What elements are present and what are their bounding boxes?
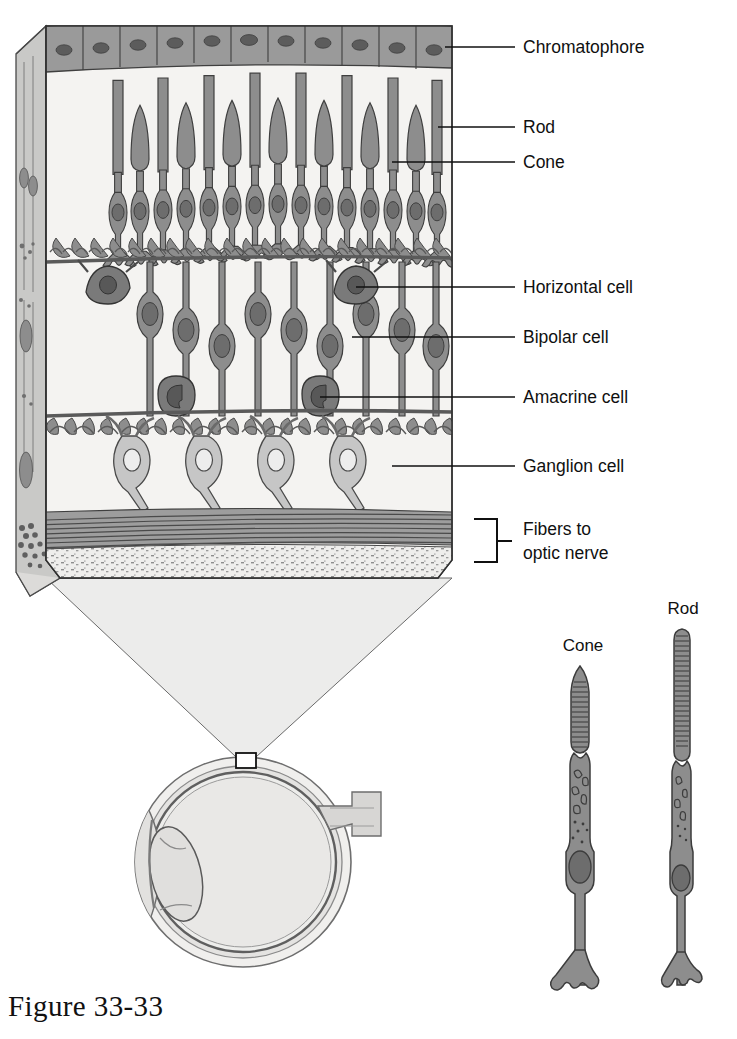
cone-inner-segment <box>137 171 144 193</box>
bipolar-nucleus <box>250 303 266 326</box>
cone-nucleus <box>569 851 591 883</box>
cone-detail-cell: Cone <box>551 636 604 990</box>
label-bipolar: Bipolar cell <box>523 327 609 347</box>
label-rod: Rod <box>523 117 555 137</box>
ganglion-nucleus <box>340 449 357 471</box>
bipolar-nucleus <box>142 303 158 326</box>
pigment-epithelium-layer <box>46 16 452 72</box>
rod-nucleus <box>295 197 307 214</box>
rod-nucleus <box>157 202 169 219</box>
bipolar-nucleus <box>178 319 194 342</box>
retina-sample-inset-box <box>236 753 256 768</box>
rod-inner-segment <box>252 165 259 187</box>
rod-nucleus <box>249 197 261 214</box>
bipolar-nucleus <box>322 335 338 358</box>
rod-inner-segment <box>298 165 305 187</box>
cone-inner-segment <box>413 171 420 193</box>
bipolar-nucleus <box>286 319 302 342</box>
ganglion-nucleus <box>268 449 285 471</box>
cone-detail-label: Cone <box>563 636 604 655</box>
figure-caption: Figure 33-33 <box>8 990 163 1022</box>
figure-root: ChromatophoreRodConeHorizontal cellBipol… <box>0 0 737 1039</box>
fibers-to-optic-nerve-callout: Fibers to optic nerve <box>474 519 609 563</box>
nerve-fiber-layer <box>46 509 452 550</box>
rod-nucleus <box>431 204 443 221</box>
rod-inner-segment <box>206 168 213 190</box>
fibers-label-line1: Fibers to <box>523 519 591 539</box>
retina-block-front-face <box>46 16 468 578</box>
cone-outer-segment <box>571 666 589 753</box>
cone-inner-segment <box>321 166 328 188</box>
rod-outer-segment <box>204 76 214 170</box>
ganglion-nucleus <box>124 449 141 471</box>
ganglion-nucleus <box>196 449 213 471</box>
rod-outer-segment <box>388 78 398 172</box>
rod-nucleus <box>112 204 124 221</box>
cone-nucleus <box>180 200 192 217</box>
rod-nucleus <box>387 202 399 219</box>
cone-inner-segment <box>367 169 374 191</box>
magnification-funnel <box>46 578 452 757</box>
cone-nucleus <box>272 196 284 213</box>
amacrine-cell <box>158 376 195 416</box>
rod-outer-segment <box>250 73 260 167</box>
retina-figure-plate: ChromatophoreRodConeHorizontal cellBipol… <box>0 0 737 1039</box>
rod-inner-segment <box>344 168 351 190</box>
rod-nucleus <box>203 199 215 216</box>
rod-inner-segment <box>115 172 122 194</box>
cone-inner-segment <box>229 166 236 188</box>
cone-inner-segment <box>275 164 282 186</box>
rod-outer-segment <box>158 78 168 172</box>
cone-inner-segment <box>183 169 190 191</box>
cone-synaptic-pedicle <box>551 950 599 990</box>
rod-nucleus <box>672 865 690 891</box>
rod-inner-segment <box>390 170 397 192</box>
label-amacrine: Amacrine cell <box>523 387 628 407</box>
label-cone: Cone <box>523 152 565 172</box>
rod-detail-cell: Rod <box>662 599 703 987</box>
rod-outer-segment <box>113 80 123 174</box>
fibers-label-line2: optic nerve <box>523 543 609 563</box>
inner-limiting-layer <box>46 544 452 578</box>
rod-outer-segment <box>342 76 352 170</box>
cone-nucleus <box>364 200 376 217</box>
bipolar-nucleus <box>358 303 374 326</box>
horizontal-nucleus <box>348 276 365 294</box>
rod-detail-label: Rod <box>667 599 698 618</box>
cone-nucleus <box>318 198 330 215</box>
cone-nucleus <box>226 198 238 215</box>
rod-inner-segment <box>160 170 167 192</box>
bipolar-nucleus <box>428 335 444 358</box>
rod-nucleus <box>341 199 353 216</box>
cone-nucleus <box>410 203 422 220</box>
inner-plexiform-layer <box>47 418 455 434</box>
label-horizontal: Horizontal cell <box>523 277 633 297</box>
bipolar-nucleus <box>394 319 410 342</box>
horizontal-nucleus <box>100 276 117 294</box>
label-ganglion: Ganglion cell <box>523 456 624 476</box>
eyeball-cross-section <box>131 753 381 967</box>
bipolar-nucleus <box>214 335 230 358</box>
label-chromatophore: Chromatophore <box>523 37 645 57</box>
rod-inner-segment <box>434 172 441 194</box>
rod-synaptic-spherule <box>662 952 703 987</box>
cone-nucleus <box>134 203 146 220</box>
rod-outer-segment <box>296 73 306 167</box>
